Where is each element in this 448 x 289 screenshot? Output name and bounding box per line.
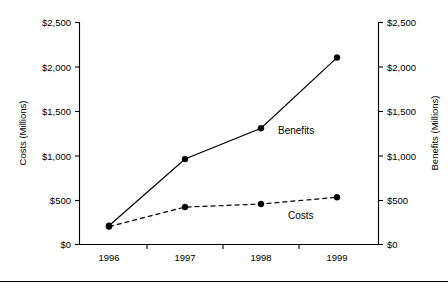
series-benefits-label: Benefits bbox=[278, 125, 314, 136]
series-benefits-point-1999 bbox=[334, 55, 340, 61]
series-costs-point-1999 bbox=[334, 194, 340, 200]
right-tick-label-1000: $1,000 bbox=[387, 151, 416, 162]
left-tick-label-1000: $1,000 bbox=[42, 151, 71, 162]
series-costs-point-1996 bbox=[106, 224, 112, 230]
x-tick-label-1998: 1998 bbox=[250, 252, 271, 263]
left-tick-label-500: $500 bbox=[50, 195, 71, 206]
chart-figure: $2,500 $2,000 $1,500 $1,000 $500 $0 Cost… bbox=[0, 0, 448, 289]
left-tick-label-2000: $2,000 bbox=[42, 62, 71, 73]
series-costs-label: Costs bbox=[288, 210, 314, 221]
left-axis-title: Costs (Millions) bbox=[17, 101, 28, 166]
right-tick-label-500: $500 bbox=[387, 195, 408, 206]
left-tick-label-1500: $1,500 bbox=[42, 106, 71, 117]
left-tick-label-2500: $2,500 bbox=[42, 17, 71, 28]
x-tick-label-1996: 1996 bbox=[98, 252, 119, 263]
right-tick-label-2000: $2,000 bbox=[387, 62, 416, 73]
right-tick-label-1500: $1,500 bbox=[387, 106, 416, 117]
right-tick-label-0: $0 bbox=[387, 239, 398, 250]
x-tick-label-1997: 1997 bbox=[174, 252, 195, 263]
series-costs-point-1997 bbox=[182, 204, 188, 210]
series-benefits-point-1997 bbox=[182, 156, 188, 162]
series-costs-point-1998 bbox=[258, 201, 264, 207]
left-tick-label-0: $0 bbox=[60, 239, 71, 250]
dual-axis-line-chart: $2,500 $2,000 $1,500 $1,000 $500 $0 Cost… bbox=[0, 0, 448, 289]
right-axis-title: Benefits (Millions) bbox=[429, 96, 440, 171]
series-benefits-point-1998 bbox=[258, 125, 264, 131]
right-tick-label-2500: $2,500 bbox=[387, 17, 416, 28]
x-tick-label-1999: 1999 bbox=[326, 252, 347, 263]
